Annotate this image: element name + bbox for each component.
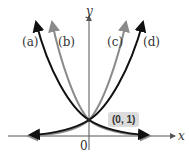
y-axis-label: y: [86, 5, 93, 17]
curve-label-a: (a): [22, 36, 39, 48]
point-callout: (0, 1): [108, 112, 139, 127]
point-0-1: [87, 118, 91, 122]
x-axis-label: x: [178, 130, 185, 142]
exponential-graph: [0, 0, 189, 157]
curve-label-c: (c): [107, 36, 123, 48]
curve-label-d: (d): [143, 36, 160, 48]
curve-label-b: (b): [58, 36, 75, 48]
origin-label: 0: [80, 140, 88, 152]
